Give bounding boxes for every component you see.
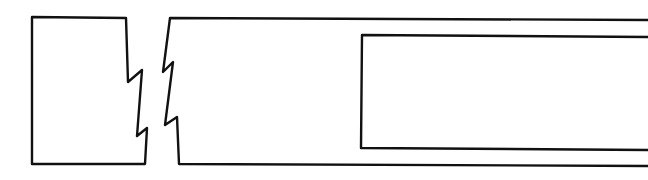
- broken-view-drawing: [0, 0, 648, 180]
- diagram-canvas: [0, 0, 648, 180]
- left-block-outline: [32, 17, 147, 164]
- right-body-outline: [163, 18, 648, 166]
- inner-rectangle-outline: [361, 35, 648, 150]
